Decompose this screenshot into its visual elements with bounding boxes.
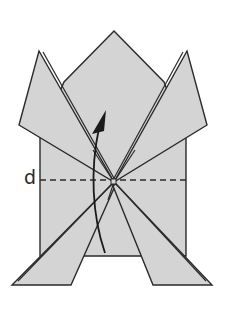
- fold-line-label: d: [24, 168, 36, 187]
- origami-diagram: d: [0, 0, 229, 315]
- center-point: [111, 179, 116, 184]
